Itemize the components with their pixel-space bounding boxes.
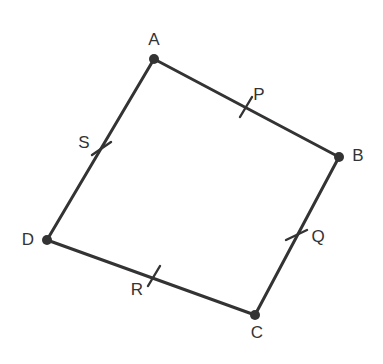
midpoint-label-p: P: [253, 85, 264, 104]
vertex-dot-b: [334, 152, 344, 162]
tick-mark-s: [92, 142, 111, 155]
quad-side-cd: [47, 240, 255, 315]
midpoint-label-r: R: [131, 280, 143, 299]
quadrilateral-sides: [47, 59, 339, 315]
geometry-figure: ABCD PQRS: [0, 0, 383, 364]
midpoint-labels: PQRS: [78, 85, 324, 299]
vertex-dot-a: [149, 54, 159, 64]
midpoint-label-q: Q: [311, 227, 324, 246]
vertex-label-a: A: [148, 30, 160, 49]
vertex-dot-c: [250, 310, 260, 320]
midpoint-tick-marks: [92, 97, 307, 286]
vertex-label-b: B: [352, 146, 363, 165]
vertex-label-c: C: [251, 323, 263, 342]
vertex-labels: ABCD: [22, 30, 364, 342]
vertex-label-d: D: [22, 230, 34, 249]
vertex-dots: [42, 54, 344, 320]
quadrilateral-diagram-svg: ABCD PQRS: [0, 0, 383, 364]
midpoint-label-s: S: [78, 133, 89, 152]
vertex-dot-d: [42, 235, 52, 245]
